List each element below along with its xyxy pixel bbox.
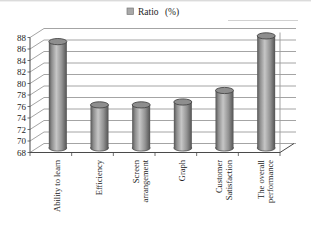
- bar: [91, 105, 109, 148]
- gridline-connector: [30, 132, 44, 141]
- category-label: Graph: [177, 159, 187, 181]
- y-axis-label: 70: [17, 136, 27, 146]
- bar: [216, 91, 234, 149]
- category-label: Customer: [214, 160, 224, 193]
- category-label: The overall: [256, 159, 266, 199]
- legend-swatch-icon: [127, 8, 134, 15]
- category-label: Efficiency: [94, 159, 104, 195]
- bar-top-cap: [132, 102, 150, 108]
- bar-chart-svg: 6870727476788082848688Ability to learnEf…: [0, 0, 311, 237]
- y-axis-label: 86: [17, 44, 27, 54]
- y-axis-label: 88: [17, 33, 27, 43]
- gridline-connector: [30, 29, 44, 38]
- bar-top-cap: [49, 39, 67, 45]
- bar: [257, 36, 275, 148]
- bar: [49, 42, 67, 148]
- y-axis-label: 78: [17, 90, 27, 100]
- chart-figure: 6870727476788082848688Ability to learnEf…: [0, 0, 311, 237]
- category-label: Screen: [131, 159, 141, 183]
- gridline-connector: [30, 86, 44, 95]
- bar-top-cap: [91, 102, 109, 108]
- y-axis-label: 68: [17, 148, 27, 158]
- gridline-connector: [30, 121, 44, 130]
- gridline-connector: [30, 52, 44, 61]
- bar: [132, 105, 150, 148]
- category-label: arrangement: [140, 159, 150, 202]
- bar: [174, 102, 192, 148]
- category-label: Ability to learn: [52, 159, 62, 212]
- legend-label: Ratio (%): [138, 7, 179, 18]
- gridline-connector: [30, 75, 44, 84]
- bar-top-cap: [174, 99, 192, 105]
- category-label: Satisfaction: [224, 159, 234, 200]
- y-axis-label: 74: [17, 113, 27, 123]
- floor: [30, 144, 294, 153]
- y-axis-label: 80: [17, 79, 27, 89]
- y-axis-label: 84: [17, 56, 27, 66]
- bar-top-cap: [216, 87, 234, 93]
- bar-top-cap: [257, 33, 275, 39]
- y-axis-label: 82: [17, 67, 26, 77]
- gridline-connector: [30, 109, 44, 118]
- y-axis-label: 76: [17, 102, 27, 112]
- plot-area: 6870727476788082848688Ability to learnEf…: [0, 1, 311, 212]
- category-label: performance: [265, 160, 275, 203]
- y-axis-label: 72: [17, 125, 26, 135]
- gridline-connector: [30, 63, 44, 72]
- legend: Ratio (%): [127, 7, 179, 18]
- gridline-connector: [30, 40, 44, 49]
- gridline-connector: [30, 98, 44, 107]
